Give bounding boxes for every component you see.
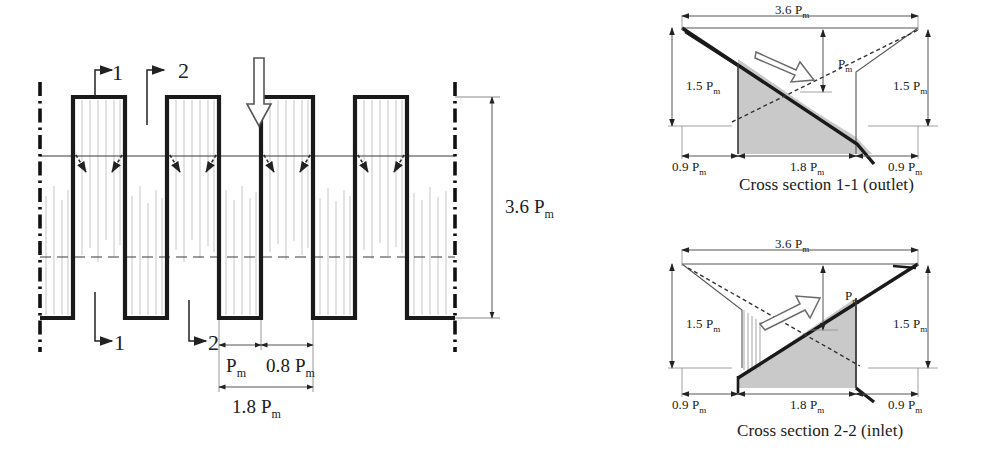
dim-label-inlet-mid-height: Pm	[845, 288, 859, 306]
subscript-m: m	[699, 167, 706, 177]
subscript-m: m	[920, 86, 927, 96]
subscript-m: m	[802, 244, 809, 254]
flow-direction-arrow	[247, 58, 271, 126]
caption-inlet: Cross section 2-2 (inlet)	[737, 421, 903, 441]
dim-label-inlet-base-mid: 1.8 Pm	[790, 397, 824, 415]
dim-label-inlet-base-left: 0.9 Pm	[672, 397, 706, 415]
section-mark-2-top	[147, 70, 164, 125]
subscript-m: m	[545, 207, 554, 221]
dim-label-outlet-base-right: 0.9 Pm	[888, 159, 922, 177]
hatching	[46, 100, 446, 315]
subscript-m: m	[915, 405, 922, 415]
subscript-m: m	[306, 366, 315, 380]
dim-label-outlet-right-height: 1.5 Pm	[893, 78, 927, 96]
dim-label-outlet-mid-height: Pm	[838, 56, 852, 74]
dimension-label-pitch-ridge: Pm	[226, 355, 246, 381]
figure-root: 1 2 1 2 3.6 Pm Pm 0.8 Pm 1.8 Pm	[0, 0, 991, 464]
subscript-m: m	[915, 167, 922, 177]
dimension-label-pitch-total: 1.8 Pm	[232, 396, 281, 422]
dim-label-outlet-width: 3.6 Pm	[775, 2, 809, 20]
subscript-m: m	[817, 405, 824, 415]
fin-hatching	[744, 310, 760, 370]
profile-upper-edge	[685, 32, 738, 66]
flow-arrow-inlet	[760, 296, 820, 330]
right-tail	[856, 388, 874, 402]
dimension-label-total-height: 3.6 Pm	[505, 196, 554, 222]
section-mark-1-bottom	[95, 292, 112, 341]
subscript-m: m	[713, 324, 720, 334]
dim-label-outlet-base-left: 0.9 Pm	[672, 159, 706, 177]
subscript-m: m	[237, 366, 246, 380]
dim-label-outlet-left-height: 1.5 Pm	[686, 78, 720, 96]
dimension-total-height	[455, 97, 500, 318]
dim-label-inlet-right-height: 1.5 Pm	[893, 316, 927, 334]
subscript-m: m	[920, 324, 927, 334]
subscript-m: m	[272, 407, 281, 421]
subscript-m: m	[713, 86, 720, 96]
dim-label-inlet-width: 3.6 Pm	[775, 236, 809, 254]
section-mark-1-top	[95, 70, 112, 97]
dim-label-inlet-base-right: 0.9 Pm	[888, 397, 922, 415]
dimension-label-pitch-groove: 0.8 Pm	[266, 355, 315, 381]
serpentine-wave-outline	[40, 97, 455, 318]
section-label-1-bottom: 1	[114, 330, 125, 356]
subscript-m: m	[802, 10, 809, 20]
section-mark-2-bottom	[189, 300, 206, 341]
dim-label-outlet-base-mid: 1.8 Pm	[790, 159, 824, 177]
section-label-2-top: 2	[178, 58, 189, 84]
serpentine-channel-plan-view	[0, 0, 560, 464]
section-label-1-top: 1	[112, 60, 123, 86]
dim-label-inlet-left-height: 1.5 Pm	[686, 316, 720, 334]
section-label-2-bottom: 2	[208, 330, 219, 356]
subscript-m: m	[699, 405, 706, 415]
subscript-m: m	[845, 64, 852, 74]
subscript-m: m	[852, 296, 859, 306]
caption-outlet: Cross section 1-1 (outlet)	[739, 175, 914, 195]
